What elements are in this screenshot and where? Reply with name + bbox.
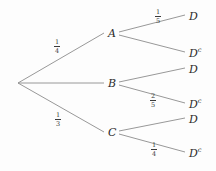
fraction-numerator: 2 [150, 93, 156, 100]
probability-label-c-to-dc: 1 4 [151, 142, 157, 158]
fraction-numerator: 1 [151, 142, 157, 149]
probability-label-b-to-dc: 2 5 [150, 93, 156, 109]
leaf-base: D [189, 47, 198, 60]
fraction-denominator: 5 [150, 102, 156, 109]
edge-a-to-d [119, 15, 185, 32]
fraction-numerator: 1 [54, 39, 60, 46]
leaf-base: D [189, 10, 198, 23]
leaf-base: D [189, 98, 198, 111]
probability-label-root-to-a: 1 4 [54, 39, 60, 55]
leaf-superscript: c [198, 146, 202, 154]
leaf-label-b-dc: Dc [189, 98, 201, 110]
fraction-denominator: 4 [151, 151, 157, 158]
edge-root-to-a [18, 33, 104, 83]
leaf-base: D [189, 147, 198, 160]
fraction-numerator: 1 [155, 9, 161, 16]
leaf-superscript: c [198, 97, 202, 105]
edge-c-to-d [119, 118, 185, 131]
leaf-label-a-dc: Dc [189, 47, 201, 59]
leaf-label-a-d: D [189, 10, 198, 22]
probability-label-a-to-d: 1 5 [155, 9, 161, 25]
leaf-label-b-d: D [189, 63, 198, 75]
edge-a-to-dc [119, 35, 185, 52]
leaf-label-c-dc: Dc [189, 147, 201, 159]
fraction-numerator: 1 [55, 112, 61, 119]
probability-tree-diagram: A B C D Dc D Dc D Dc 1 4 1 3 1 5 2 5 1 [0, 0, 216, 171]
probability-label-root-to-c: 1 3 [55, 112, 61, 128]
fraction-denominator: 5 [155, 18, 161, 25]
leaf-superscript: c [198, 46, 202, 54]
node-label-b: B [108, 78, 116, 89]
leaf-base: D [189, 63, 198, 76]
fraction-denominator: 3 [55, 121, 61, 128]
leaf-base: D [189, 113, 198, 126]
fraction-denominator: 4 [54, 48, 60, 55]
edge-b-to-d [119, 68, 185, 82]
leaf-label-c-d: D [189, 113, 198, 125]
node-label-a: A [108, 28, 116, 39]
node-label-c: C [108, 127, 116, 138]
